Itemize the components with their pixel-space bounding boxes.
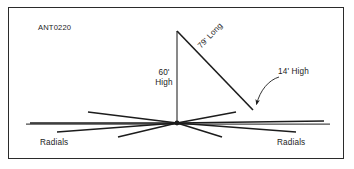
- radial-line: [177, 112, 236, 123]
- mast-height-unit: High: [152, 78, 176, 88]
- mast-height-label: 60' High: [152, 68, 176, 89]
- radial-line: [177, 121, 324, 123]
- radials-label-right: Radials: [277, 138, 305, 148]
- mast-height-value: 60': [152, 68, 176, 78]
- hub-dot: [175, 121, 180, 126]
- antenna-wire-line: [177, 31, 253, 110]
- drawing-id-label: ANT0220: [38, 23, 71, 32]
- radial-line: [88, 112, 177, 123]
- leader-arrow: [257, 77, 280, 105]
- radials-label-left: Radials: [40, 138, 68, 148]
- antenna-diagram: ANT0220 60' High 79' Long 14' High Radia…: [0, 0, 354, 169]
- end-height-label: 14' High: [278, 67, 309, 77]
